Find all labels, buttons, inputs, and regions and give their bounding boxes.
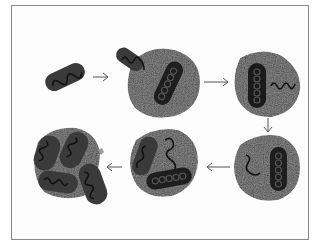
life-cycle-diagram	[0, 0, 320, 250]
arrow-left-icon	[207, 163, 230, 171]
arrow-right-icon	[93, 73, 108, 81]
stage-1-free-particle	[42, 60, 88, 94]
arrow-down-icon	[264, 118, 272, 132]
arrow-left-icon	[107, 163, 122, 171]
arrow-right-icon	[204, 78, 228, 86]
stage-2-infected-cell	[113, 45, 200, 118]
stage-4-cell	[234, 135, 300, 201]
stage-6-bursting-cell	[31, 128, 111, 208]
stage-3-cell	[234, 51, 300, 117]
stage-5-cell	[130, 129, 198, 197]
